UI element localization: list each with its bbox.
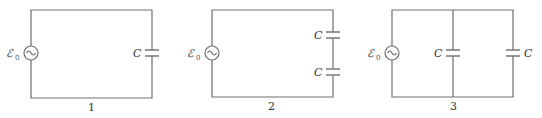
circuit-number: 3 bbox=[450, 100, 457, 113]
circuit-3: ℰ 0 C C 3 bbox=[367, 10, 533, 113]
emf-label: ℰ bbox=[367, 47, 375, 60]
circuit-2-loop-wire bbox=[212, 10, 333, 97]
emf-subscript: 0 bbox=[15, 54, 19, 62]
emf-label: ℰ bbox=[187, 47, 195, 60]
circuit-number: 1 bbox=[88, 101, 95, 114]
circuit-diagrams: ℰ 0 C 1 ℰ 0 C C 2 ℰ 0 C C 3 bbox=[0, 0, 542, 118]
capacitor-label: C bbox=[314, 29, 323, 42]
emf-subscript: 0 bbox=[196, 54, 200, 62]
circuit-3-loop-wire bbox=[392, 10, 513, 97]
capacitor-label: C bbox=[133, 47, 142, 60]
circuit-2: ℰ 0 C C 2 bbox=[187, 10, 340, 113]
emf-label: ℰ bbox=[6, 47, 14, 60]
circuit-number: 2 bbox=[268, 100, 275, 113]
emf-subscript: 0 bbox=[376, 54, 380, 62]
capacitor-label: C bbox=[524, 47, 533, 60]
circuit-1: ℰ 0 C 1 bbox=[6, 10, 159, 114]
capacitor-label: C bbox=[434, 47, 443, 60]
capacitor-label: C bbox=[314, 66, 323, 79]
